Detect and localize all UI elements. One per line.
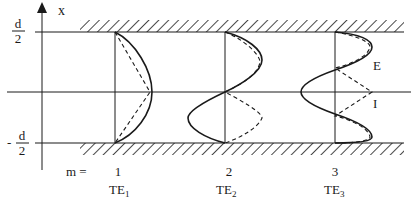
mode-1-name: TE1 [109, 182, 129, 199]
bottom-wall-hatch [80, 143, 404, 155]
axis-arrow-icon [37, 2, 47, 13]
axis-label: x [58, 3, 65, 18]
mode-1-solid-curve [115, 32, 152, 143]
bottom-label-sign: - [7, 135, 11, 150]
top-wall-hatch [80, 20, 404, 32]
mode-3-profile [301, 32, 372, 143]
top-label-num: d [15, 16, 22, 31]
legend-i-label: I [373, 96, 377, 111]
mode-2-profile [188, 32, 262, 143]
waveguide-te-modes-diagram: x d 2 - d 2 E I m = 1 TE1 2 TE2 3 TE3 [0, 0, 414, 205]
mode-1-dashed-curve [115, 32, 150, 143]
bottom-label-den: 2 [19, 143, 26, 158]
mode-1-profile [115, 32, 152, 143]
mode-1-number: 1 [115, 164, 122, 179]
mode-3-name: TE3 [324, 182, 345, 199]
mode-3-dashed-curve [335, 32, 372, 143]
mode-prefix: m = [66, 164, 87, 179]
bottom-label-num: d [19, 128, 26, 143]
mode-2-number: 2 [226, 164, 233, 179]
top-label-den: 2 [15, 31, 22, 46]
mode-3-number: 3 [332, 164, 339, 179]
mode-2-name: TE2 [216, 182, 236, 199]
legend-e-label: E [373, 58, 381, 73]
